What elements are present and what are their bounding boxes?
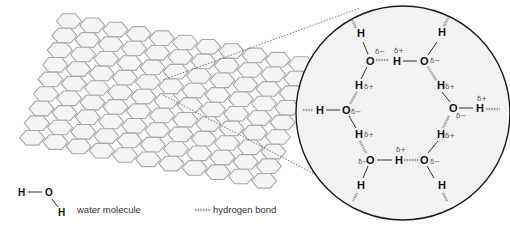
oxygen-atom: O (420, 154, 429, 166)
lattice-hexagon (140, 60, 165, 75)
lattice-hexagon (34, 87, 59, 102)
hydrogen-atom: H (357, 179, 365, 191)
lattice-hexagon (71, 125, 96, 140)
lattice-hexagon (238, 140, 263, 155)
lattice-hexagon (164, 142, 189, 157)
lattice-hexagon (117, 133, 142, 148)
oxygen-atom: O (366, 55, 375, 67)
lattice-hexagon (191, 131, 216, 146)
lattice-hexagon (261, 144, 286, 159)
lattice-hexagon (233, 155, 258, 170)
lattice-hexagon (252, 174, 277, 189)
lattice-hexagon (61, 76, 86, 91)
lattice-hexagon (126, 27, 151, 42)
lattice-hexagon (219, 44, 244, 59)
lattice-hexagon (126, 104, 151, 119)
lattice-hexagon (149, 31, 174, 46)
lattice-hexagon (182, 83, 207, 98)
lattice-hexagon (103, 22, 128, 37)
hydrogen-atom: H (437, 128, 445, 140)
lattice-hexagon (168, 50, 193, 65)
lattice-hexagon (131, 89, 156, 104)
lattice-hexagon (136, 152, 161, 167)
lattice-hexagon (154, 94, 179, 109)
lattice-hexagon (66, 62, 91, 77)
legend-h2: H (58, 207, 65, 218)
partial-positive-charge: δ+ (364, 131, 374, 139)
lattice-hexagon (266, 130, 291, 145)
legend-hbond-label: hydrogen bond (213, 204, 276, 215)
partial-positive-charge: δ+ (394, 47, 404, 55)
ice-lattice-diagram: OOOOOOδ−δ−δ−δ−δ−δ−Hδ+Hδ+HHHδ+HHδ+HHδ+Hδ+… (0, 0, 510, 227)
lattice-hexagon (242, 48, 267, 63)
lattice-hexagon (224, 107, 249, 122)
legend-water-label: water molecule (76, 204, 141, 215)
legend-water-molecule: H O H water molecule (18, 187, 141, 218)
lattice-hexagon (168, 127, 193, 142)
partial-positive-charge: δ+ (396, 146, 406, 154)
lattice-hexagon (163, 64, 188, 79)
lattice-hexagon (215, 136, 240, 151)
lattice-hexagon (94, 52, 119, 67)
partial-negative-charge: δ− (430, 158, 440, 166)
lattice-hexagon (159, 79, 184, 94)
lattice-hexagon (89, 143, 114, 158)
lattice-hexagon (159, 156, 184, 171)
lattice-hexagon (247, 111, 272, 126)
lattice-hexagon (66, 139, 91, 154)
lattice-hexagon (94, 129, 119, 144)
lattice-hexagon (145, 123, 170, 138)
partial-positive-charge: δ+ (445, 83, 455, 91)
lattice-hexagon (205, 165, 230, 180)
hydrogen-atom: H (357, 27, 365, 39)
lattice-hexagon (210, 150, 235, 165)
lattice-hexagon (196, 40, 221, 55)
lattice-hexagon (38, 72, 63, 87)
hydrogen-atom: H (393, 55, 401, 67)
lattice-hexagon (182, 161, 207, 176)
lattice-hexagon (122, 41, 147, 56)
lattice-hexagon (52, 106, 77, 121)
partial-negative-charge: δ− (375, 48, 385, 56)
lattice-hexagon (187, 146, 212, 161)
lattice-hexagon (201, 102, 226, 117)
hydrogen-atom: H (437, 79, 445, 91)
lattice-hexagon (228, 92, 253, 107)
lattice-hexagon (43, 58, 68, 73)
lattice-hexagon (57, 14, 82, 29)
hexagonal-lattice (20, 14, 314, 188)
lattice-hexagon (99, 114, 124, 129)
lattice-hexagon (187, 69, 212, 84)
partial-positive-charge: δ+ (364, 83, 374, 91)
lattice-hexagon (47, 43, 72, 58)
lattice-hexagon (219, 121, 244, 136)
lattice-hexagon (229, 169, 254, 184)
lattice-hexagon (238, 63, 263, 78)
legend: H O H water molecule hydrogen bond (18, 187, 276, 218)
lattice-hexagon (256, 82, 281, 97)
lattice-hexagon (205, 88, 230, 103)
lattice-hexagon (80, 18, 105, 33)
partial-positive-charge: δ+ (445, 132, 455, 140)
oxygen-atom: O (420, 55, 429, 67)
lattice-hexagon (43, 135, 68, 150)
hydrogen-atom: H (395, 154, 403, 166)
lattice-hexagon (177, 98, 202, 113)
legend-hydrogen-bond: hydrogen bond (195, 204, 276, 215)
lattice-hexagon (85, 81, 110, 96)
lattice-hexagon (57, 91, 82, 106)
partial-negative-charge: δ− (430, 57, 440, 65)
lattice-hexagon (210, 73, 235, 88)
lattice-hexagon (145, 46, 170, 61)
partial-negative-charge: δ− (351, 108, 361, 116)
lattice-hexagon (117, 56, 142, 71)
lattice-hexagon (80, 95, 105, 110)
lattice-hexagon (75, 33, 100, 48)
lattice-hexagon (140, 137, 165, 152)
lattice-hexagon (52, 28, 77, 43)
hydrogen-atom: H (355, 79, 363, 91)
lattice-hexagon (191, 54, 216, 69)
lattice-hexagon (173, 113, 198, 128)
hydrogen-atom: H (316, 104, 324, 116)
lattice-hexagon (108, 85, 133, 100)
